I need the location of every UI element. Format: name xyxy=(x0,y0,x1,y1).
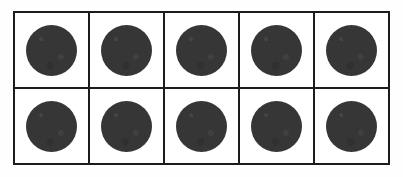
counter-dot-icon xyxy=(251,101,302,152)
cell-r1c4[interactable] xyxy=(240,13,315,87)
counter-dot-icon xyxy=(176,25,227,76)
ten-frame-grid xyxy=(13,11,390,165)
counter-dot-icon xyxy=(101,25,152,76)
counter-dot-icon xyxy=(326,101,377,152)
counter-dot-icon xyxy=(176,101,227,152)
cell-r2c2[interactable] xyxy=(90,89,165,163)
cell-r2c5[interactable] xyxy=(315,89,388,163)
counter-dot-icon xyxy=(101,101,152,152)
ten-frame-bottom-row xyxy=(15,89,388,163)
cell-r2c4[interactable] xyxy=(240,89,315,163)
cell-r1c2[interactable] xyxy=(90,13,165,87)
ten-frame-page xyxy=(0,0,403,177)
counter-dot-icon xyxy=(251,25,302,76)
cell-r2c3[interactable] xyxy=(165,89,240,163)
cell-r1c1[interactable] xyxy=(15,13,90,87)
counter-dot-icon xyxy=(26,25,77,76)
cell-r2c1[interactable] xyxy=(15,89,90,163)
cell-r1c5[interactable] xyxy=(315,13,388,87)
counter-dot-icon xyxy=(326,25,377,76)
cell-r1c3[interactable] xyxy=(165,13,240,87)
counter-dot-icon xyxy=(26,101,77,152)
ten-frame-top-row xyxy=(15,13,388,89)
